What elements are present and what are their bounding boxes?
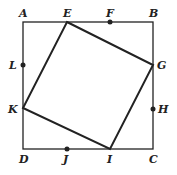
label-I: I [106, 153, 113, 166]
point-H-dot [151, 107, 156, 112]
label-A: A [18, 7, 28, 20]
geometry-diagram: A E F B L G K H D J I C [0, 0, 177, 175]
label-L: L [8, 59, 17, 72]
point-L-dot [21, 63, 26, 68]
label-D: D [18, 153, 29, 166]
label-H: H [157, 103, 169, 116]
label-K: K [7, 103, 18, 116]
label-J: J [61, 153, 69, 166]
label-F: F [105, 7, 115, 20]
inner-square-EGIK [23, 22, 153, 149]
label-E: E [62, 7, 72, 20]
label-C: C [149, 153, 158, 166]
point-J-dot [65, 147, 70, 152]
label-G: G [157, 59, 166, 72]
point-F-dot [108, 20, 113, 25]
outer-square-ABCD [23, 22, 153, 149]
label-B: B [148, 7, 158, 20]
